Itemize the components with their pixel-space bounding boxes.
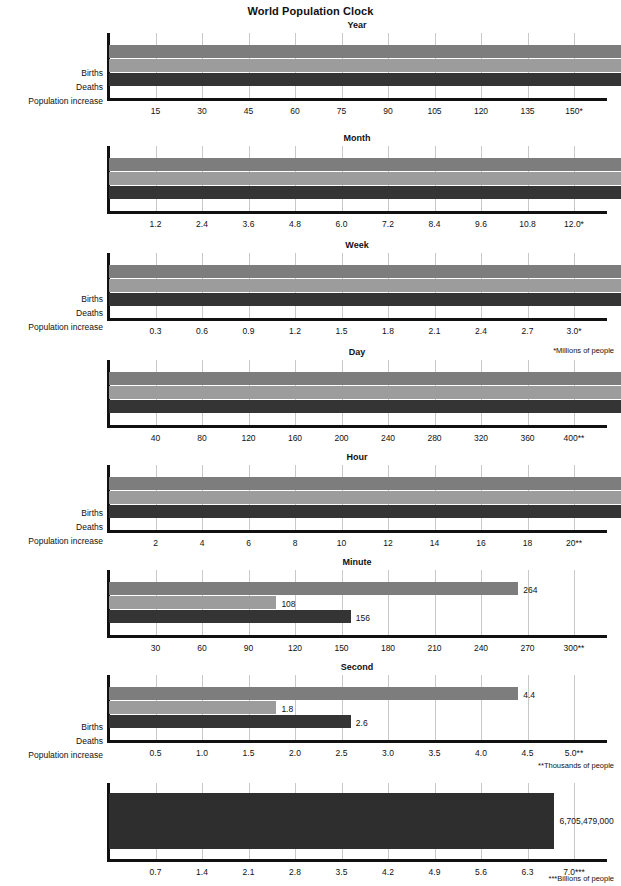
- gridline: [342, 675, 343, 740]
- bar-deaths[interactable]: [109, 386, 621, 399]
- x-tick-label: 400**: [544, 434, 604, 443]
- x-axis-line: [107, 859, 607, 862]
- x-axis-line: [107, 211, 607, 214]
- footnote-thousands: **Thousands of people: [538, 762, 614, 770]
- row-label: Population increase: [0, 97, 103, 106]
- row-label: Births: [0, 295, 103, 304]
- panel-title: Week: [107, 240, 607, 250]
- bar-value-label: 1.8: [281, 705, 293, 714]
- x-axis-line: [107, 740, 607, 743]
- bar-births[interactable]: [109, 687, 518, 700]
- x-tick-label: 300**: [544, 644, 604, 653]
- gridline: [435, 675, 436, 740]
- plot-area: 0.71.42.12.83.54.24.95.66.37.0***6,705,4…: [107, 783, 607, 859]
- panel-title: Month: [107, 133, 607, 143]
- bar-value-label: 156: [356, 614, 370, 623]
- row-label: Births: [0, 69, 103, 78]
- gridline: [528, 675, 529, 740]
- gridline: [481, 675, 482, 740]
- bar-deaths[interactable]: [109, 172, 621, 185]
- plot-area: 0.51.01.52.02.53.03.54.04.55.0**4.41.82.…: [107, 675, 607, 740]
- bar-value-label: 108: [281, 600, 295, 609]
- bar-deaths[interactable]: [109, 279, 621, 292]
- plot-area: 153045607590105120135150*138,715,00056,7…: [107, 33, 607, 98]
- gridline: [388, 570, 389, 635]
- bar-increase[interactable]: [109, 400, 621, 413]
- row-label: Deaths: [0, 83, 103, 92]
- panel-title: Second: [107, 662, 607, 672]
- row-label: Population increase: [0, 323, 103, 332]
- bar-deaths[interactable]: [109, 596, 276, 609]
- bar-increase[interactable]: [109, 505, 621, 518]
- x-tick-label: 5.0**: [544, 749, 604, 758]
- gridline: [481, 570, 482, 635]
- row-label: Deaths: [0, 737, 103, 746]
- bar-increase[interactable]: [109, 610, 351, 623]
- bar-increase[interactable]: [109, 186, 621, 199]
- gridline: [342, 570, 343, 635]
- row-label: Births: [0, 723, 103, 732]
- bar-increase[interactable]: [109, 715, 351, 728]
- plot-area: 1.22.43.64.86.07.28.49.610.812.0*11,559,…: [107, 146, 607, 211]
- bar-births[interactable]: [109, 372, 621, 385]
- x-tick-label: 150*: [544, 107, 604, 116]
- plot-area: 306090120150180210240270300**264108156: [107, 570, 607, 635]
- panel-title: Day: [107, 347, 607, 357]
- x-tick-label: 20**: [544, 539, 604, 548]
- bar-total[interactable]: [109, 793, 554, 849]
- plot-area: 4080120160200240280320360400**380,041155…: [107, 360, 607, 425]
- bar-increase[interactable]: [109, 73, 621, 86]
- panel-title: Year: [107, 20, 607, 30]
- bar-births[interactable]: [109, 45, 621, 58]
- bar-births[interactable]: [109, 265, 621, 278]
- bar-births[interactable]: [109, 158, 621, 171]
- bar-deaths[interactable]: [109, 59, 621, 72]
- x-axis-line: [107, 530, 607, 533]
- plot-area: 2468101214161820**15,8356,4819,354: [107, 465, 607, 530]
- row-label: Population increase: [0, 751, 103, 760]
- bar-value-label: 6,705,479,000: [559, 817, 613, 826]
- gridline: [435, 570, 436, 635]
- gridline: [528, 570, 529, 635]
- x-axis-line: [107, 98, 607, 101]
- gridline: [574, 570, 575, 635]
- row-label: Population increase: [0, 537, 103, 546]
- x-axis-line: [107, 318, 607, 321]
- gridline: [388, 675, 389, 740]
- footnote-billions: ***Billions of people: [549, 875, 614, 883]
- x-axis-line: [107, 635, 607, 638]
- x-tick-label: 12.0*: [544, 220, 604, 229]
- bar-value-label: 264: [523, 586, 537, 595]
- gridline: [574, 675, 575, 740]
- bar-deaths[interactable]: [109, 701, 276, 714]
- x-axis-line: [107, 425, 607, 428]
- row-label: Deaths: [0, 523, 103, 532]
- bar-increase[interactable]: [109, 293, 621, 306]
- plot-area: 0.30.60.91.21.51.82.12.42.73.0*2,667,596…: [107, 253, 607, 318]
- bar-births[interactable]: [109, 477, 621, 490]
- bar-births[interactable]: [109, 582, 518, 595]
- bar-value-label: 4.4: [523, 691, 535, 700]
- panel-title: Hour: [107, 452, 607, 462]
- page-title: World Population Clock: [0, 5, 621, 17]
- panel-title: Minute: [107, 557, 607, 567]
- gridline: [295, 675, 296, 740]
- bar-deaths[interactable]: [109, 491, 621, 504]
- footnote-millions: *Millions of people: [553, 347, 614, 355]
- bar-value-label: 2.6: [356, 719, 368, 728]
- row-label: Deaths: [0, 309, 103, 318]
- row-label: Births: [0, 509, 103, 518]
- x-tick-label: 3.0*: [544, 327, 604, 336]
